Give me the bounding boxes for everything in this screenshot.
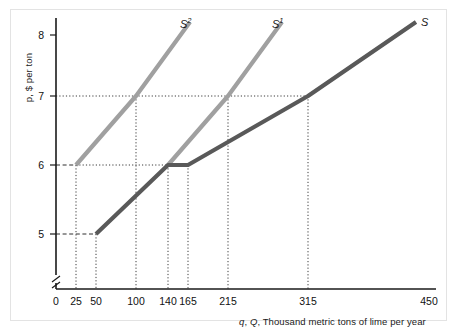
- curve-label-S1-sup: 1: [279, 16, 283, 25]
- curve-label-S2: S2: [180, 16, 192, 30]
- x-tick-label-50: 50: [76, 295, 116, 307]
- y-tick-label-8: 8: [24, 29, 44, 41]
- x-tick-label-215: 215: [208, 295, 248, 307]
- y-tick-label-6: 6: [24, 159, 44, 171]
- curve-label-S-base: S: [421, 16, 428, 28]
- x-tick-label-450: 450: [409, 295, 449, 307]
- x-tick-label-165: 165: [168, 295, 208, 307]
- curve-S: [96, 22, 416, 234]
- curve-label-S2-sup: 2: [187, 16, 191, 25]
- curve-label-S: S: [421, 16, 428, 28]
- curve-S2: [76, 22, 190, 165]
- x-tick-label-315: 315: [288, 295, 328, 307]
- chart-plot-area: [11, 10, 446, 320]
- curve-label-S1: S1: [272, 16, 284, 30]
- x-axis-title-rest: , Thousand metric tons of lime per year: [257, 316, 425, 327]
- y-axis-title: p, $ per ton: [23, 39, 34, 117]
- chart-frame: p, $ per ton q, Q, Thousand metric tons …: [10, 9, 447, 321]
- supply-curve-figure: p, $ per ton q, Q, Thousand metric tons …: [0, 0, 457, 331]
- y-tick-label-5: 5: [24, 228, 44, 240]
- x-axis-title: q, Q, Thousand metric tons of lime per y…: [239, 316, 426, 327]
- y-tick-label-7: 7: [24, 90, 44, 102]
